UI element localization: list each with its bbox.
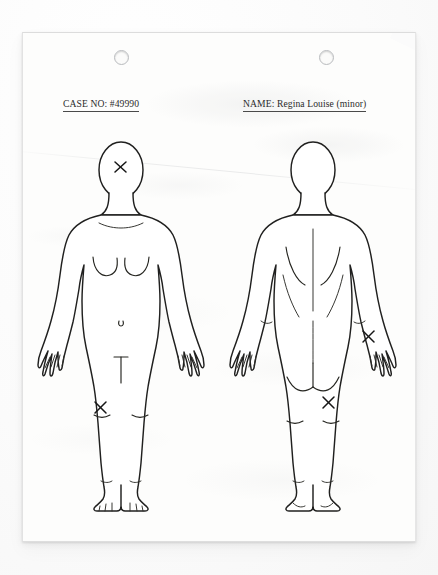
case-number-field[interactable]: CASE NO: #49990 (63, 98, 139, 112)
binder-hole-left (114, 50, 129, 65)
paper-corner-nick (390, 32, 416, 53)
case-number-text: CASE NO: #49990 (63, 98, 139, 109)
header-fields: CASE NO: #49990 NAME: Regina Louise (min… (23, 98, 415, 118)
patient-name-text: NAME: Regina Louise (minor) (243, 98, 366, 109)
binder-hole-right (319, 50, 334, 65)
body-figure-back[interactable] (223, 125, 403, 515)
patient-name-field[interactable]: NAME: Regina Louise (minor) (243, 98, 366, 112)
paper-sheet: CASE NO: #49990 NAME: Regina Louise (min… (22, 32, 416, 542)
body-figure-front[interactable] (31, 125, 211, 515)
body-diagram-area (23, 125, 415, 515)
